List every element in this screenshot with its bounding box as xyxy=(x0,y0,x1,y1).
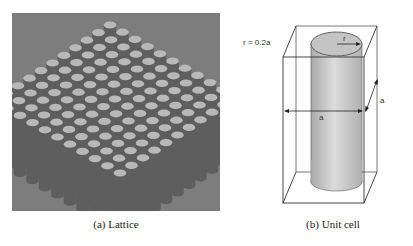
lattice-cylinder xyxy=(101,162,114,211)
lattice-cylinder xyxy=(51,133,64,198)
lattice-cylinder xyxy=(76,148,89,211)
lattice-cylinder xyxy=(64,141,77,206)
lattice-image xyxy=(12,13,220,211)
caption-lattice: (a) Lattice xyxy=(12,218,220,230)
lattice-cylinder xyxy=(137,154,150,211)
lattice-cylinder xyxy=(171,131,184,196)
lattice-cylinder xyxy=(160,139,173,204)
radius-label: r xyxy=(343,34,346,43)
lattice-cylinder xyxy=(183,124,196,189)
lattice-cylinder xyxy=(26,119,39,184)
lattice-cylinder xyxy=(148,147,161,211)
lattice-cylinder xyxy=(89,155,102,211)
lattice-cylinder xyxy=(39,126,52,191)
lattice-cylinder xyxy=(206,109,219,174)
lattice-cylinder xyxy=(12,105,14,170)
cylinder: r xyxy=(311,32,362,191)
depth-label: a xyxy=(380,96,385,105)
lattice-cylinder xyxy=(114,169,127,211)
unit-cell-diagram: r a a r = 0.2a xyxy=(240,0,413,212)
caption-unit-cell: (b) Unit cell xyxy=(283,218,383,230)
lattice-cylinder xyxy=(194,116,207,181)
radius-relation-label: r = 0.2a xyxy=(243,38,271,47)
lattice-cylinder xyxy=(14,112,27,177)
lattice-cylinder xyxy=(125,162,138,211)
width-label: a xyxy=(319,113,324,122)
lattice-render xyxy=(12,13,220,211)
